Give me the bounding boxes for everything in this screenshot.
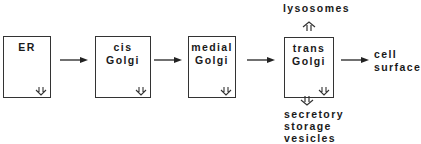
output-lysosomes: lysosomes — [283, 2, 350, 15]
down-arrow-outline-icon — [300, 96, 314, 106]
up-arrow-outline-icon — [302, 21, 316, 31]
cell-surface-line-1: cell — [374, 48, 421, 61]
node-er-line-1: ER — [4, 41, 50, 54]
node-trans-golgi: trans Golgi — [284, 37, 334, 98]
secretory-line-1: secretory — [284, 108, 344, 120]
node-cis-line-2: Golgi — [96, 54, 150, 67]
secretory-line-3: vesicles — [284, 132, 344, 144]
output-cell-surface: cell surface — [374, 48, 421, 74]
output-secretory-storage-vesicles: secretory storage vesicles — [284, 108, 344, 144]
node-medial-label: medial Golgi — [189, 41, 235, 67]
node-er-label: ER — [4, 41, 50, 54]
secretory-line-2: storage — [284, 120, 344, 132]
cell-surface-line-2: surface — [374, 61, 421, 74]
down-arrow-outline-icon — [318, 86, 330, 96]
node-trans-line-1: trans — [285, 42, 333, 55]
node-cis-golgi: cis Golgi — [95, 36, 151, 98]
node-cis-label: cis Golgi — [96, 41, 150, 67]
node-medial-golgi: medial Golgi — [188, 36, 236, 98]
node-medial-line-2: Golgi — [189, 54, 235, 67]
node-trans-line-2: Golgi — [285, 55, 333, 68]
arrow-er-to-cis — [60, 56, 88, 64]
arrow-medial-to-trans — [247, 56, 275, 64]
down-arrow-outline-icon — [220, 86, 232, 96]
down-arrow-outline-icon — [135, 86, 147, 96]
down-arrow-outline-icon — [35, 86, 47, 96]
node-medial-line-1: medial — [189, 41, 235, 54]
arrow-trans-to-cell-surface — [341, 56, 369, 64]
node-trans-label: trans Golgi — [285, 42, 333, 68]
arrow-cis-to-medial — [154, 56, 182, 64]
node-cis-line-1: cis — [96, 41, 150, 54]
node-er: ER — [3, 36, 51, 98]
